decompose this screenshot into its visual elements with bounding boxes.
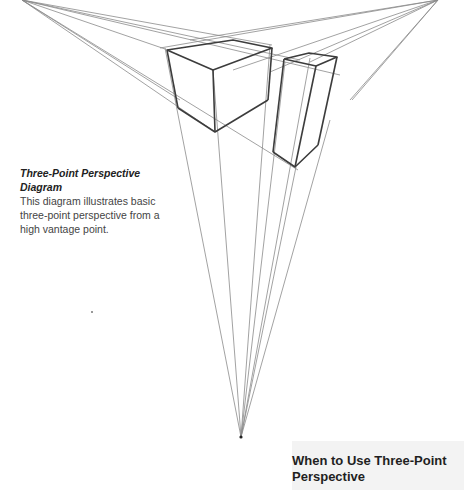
perspective-diagram <box>0 0 464 490</box>
left-box <box>167 40 272 132</box>
stray-mark <box>91 311 93 313</box>
diagram-caption: Three-Point Perspective Diagram This dia… <box>20 166 180 236</box>
caption-body: This diagram illustrates basic three-poi… <box>20 194 180 236</box>
section-heading: When to Use Three-Point Perspective <box>292 441 464 485</box>
bottom-vanishing-point <box>239 435 242 438</box>
caption-title: Three-Point Perspective Diagram <box>20 166 180 194</box>
right-box <box>273 53 337 167</box>
bottom-vanishing-lines <box>165 45 330 437</box>
right-vanishing-lines <box>160 0 438 100</box>
section-panel: When to Use Three-Point Perspective <box>292 441 464 490</box>
